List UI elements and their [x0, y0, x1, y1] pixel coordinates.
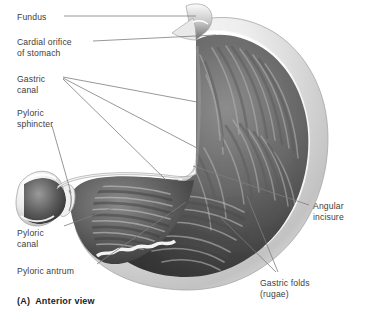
- label-gastric-canal: Gastric: [17, 74, 45, 84]
- label-gastric-folds-line2: (rugae): [260, 289, 289, 299]
- label-cardial-orifice-line2: of stomach: [17, 48, 61, 58]
- label-angular-incisure: Angular: [313, 201, 344, 211]
- label-gastric-canal-line2: canal: [17, 85, 38, 95]
- duodenal-bulb: [16, 171, 66, 226]
- label-fundus: Fundus: [17, 12, 47, 22]
- figure-caption: (A) Anterior view: [17, 296, 95, 306]
- label-pyloric-sphincter: Pyloric: [17, 108, 44, 118]
- label-pyloric-sphincter-line2: sphincter: [17, 119, 53, 129]
- label-pyloric-canal: Pyloric: [17, 228, 44, 238]
- leader-gastric-canal-b: [63, 78, 197, 148]
- label-pyloric-antrum: Pyloric antrum: [17, 266, 74, 276]
- label-cardial-orifice: Cardial orifice: [17, 37, 72, 47]
- leader-gastric-canal-c: [63, 79, 166, 180]
- label-pyloric-canal-line2: canal: [17, 239, 38, 249]
- label-angular-incisure-line2: incisure: [313, 212, 344, 222]
- esophagus-stub: [172, 4, 212, 40]
- label-gastric-folds: Gastric folds: [260, 278, 310, 288]
